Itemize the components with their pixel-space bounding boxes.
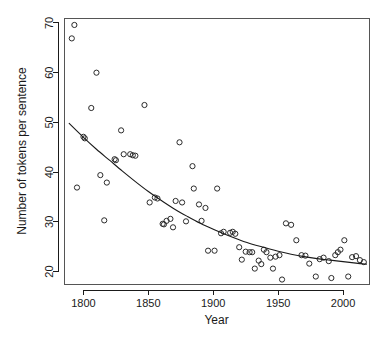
data-point — [173, 198, 178, 203]
plot-frame — [64, 18, 369, 284]
data-point — [215, 186, 220, 191]
y-tick-label: 60 — [43, 67, 55, 79]
data-point — [72, 22, 77, 27]
data-point — [313, 274, 318, 279]
data-point — [180, 200, 185, 205]
data-point — [98, 173, 103, 178]
x-tick-label: 1950 — [266, 297, 290, 309]
data-point — [270, 266, 275, 271]
data-point — [283, 221, 288, 226]
data-point — [113, 158, 118, 163]
data-point — [203, 205, 208, 210]
data-point — [279, 277, 284, 282]
y-tick-label: 30 — [43, 216, 55, 228]
scatter-plot-figure: 18001850190019502000 203040506070 YearNu… — [0, 0, 387, 340]
y-tick-label: 70 — [43, 17, 55, 29]
data-point — [289, 222, 294, 227]
data-point — [329, 275, 334, 280]
axis-titles: YearNumber of tokens per sentence — [15, 67, 229, 327]
data-point — [268, 255, 273, 260]
fitted-curve — [69, 123, 366, 264]
data-point — [142, 102, 147, 107]
data-point — [191, 186, 196, 191]
y-tick-label: 20 — [43, 265, 55, 277]
data-point — [239, 257, 244, 262]
data-point — [69, 36, 74, 41]
data-point — [74, 185, 79, 190]
chart-canvas: 18001850190019502000 203040506070 YearNu… — [0, 0, 387, 340]
data-point — [212, 248, 217, 253]
data-point — [177, 140, 182, 145]
x-tick-label: 1900 — [201, 297, 225, 309]
y-axis-title: Number of tokens per sentence — [15, 67, 29, 235]
x-tick-label: 1800 — [71, 297, 95, 309]
data-point — [147, 200, 152, 205]
data-point — [89, 105, 94, 110]
data-point — [119, 128, 124, 133]
y-tick-label: 40 — [43, 166, 55, 178]
x-tick-label: 1850 — [136, 297, 160, 309]
data-point — [346, 274, 351, 279]
data-point — [237, 245, 242, 250]
data-points — [69, 22, 366, 282]
data-point — [252, 266, 257, 271]
data-point — [94, 70, 99, 75]
x-axis-title: Year — [204, 313, 228, 327]
data-point — [121, 152, 126, 157]
y-axis: 203040506070 — [43, 17, 58, 278]
data-point — [342, 238, 347, 243]
data-point — [183, 219, 188, 224]
x-tick-label: 2000 — [331, 297, 355, 309]
y-tick-label: 50 — [43, 116, 55, 128]
trend-curve — [69, 123, 366, 264]
data-point — [307, 261, 312, 266]
data-point — [170, 225, 175, 230]
data-point — [205, 248, 210, 253]
data-point — [104, 180, 109, 185]
x-axis: 18001850190019502000 — [71, 290, 355, 309]
data-point — [294, 238, 299, 243]
data-point — [196, 202, 201, 207]
data-point — [190, 164, 195, 169]
data-point — [102, 218, 107, 223]
